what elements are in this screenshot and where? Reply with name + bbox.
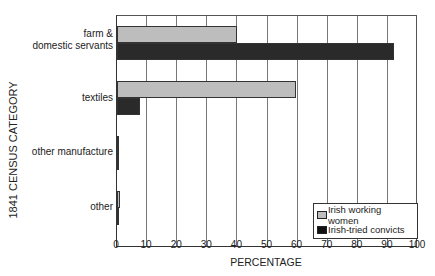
x-tick-label: 10 <box>141 239 152 250</box>
bar-convicts <box>117 43 394 60</box>
legend-label: Irish working women <box>328 204 414 226</box>
x-tick-label: 50 <box>261 239 272 250</box>
x-axis-label: PERCENTAGE <box>230 256 302 268</box>
x-tick-label: 0 <box>113 239 119 250</box>
bar-working-women <box>117 81 296 98</box>
x-tick-label: 20 <box>171 239 182 250</box>
x-tick-label: 60 <box>291 239 302 250</box>
category-label-other: other <box>90 201 113 213</box>
x-tick-label: 100 <box>409 239 426 250</box>
x-tick-label: 90 <box>381 239 392 250</box>
legend: Irish working women Irish-tried convicts <box>313 203 418 239</box>
category-label-line: domestic servants <box>32 40 113 52</box>
bar-convicts <box>117 153 119 170</box>
legend-swatch-light <box>317 211 327 219</box>
legend-item-convicts: Irish-tried convicts <box>317 222 414 237</box>
legend-label: Irish-tried convicts <box>328 224 405 235</box>
bar-working-women <box>117 26 237 43</box>
legend-swatch-dark <box>317 226 327 234</box>
category-label-line: farm & <box>32 28 113 40</box>
x-tick-label: 70 <box>321 239 332 250</box>
legend-item-working-women: Irish working women <box>317 207 414 222</box>
category-label-other-manufacture: other manufacture <box>32 146 113 158</box>
x-tick-label: 30 <box>201 239 212 250</box>
x-tick-label: 80 <box>351 239 362 250</box>
category-label-textiles: textiles <box>82 92 113 104</box>
bar-working-women <box>117 136 119 153</box>
x-tick-label: 40 <box>231 239 242 250</box>
y-axis-label-text: 1841 CENSUS CATEGORY <box>7 81 19 218</box>
category-label-farm: farm & domestic servants <box>32 28 113 52</box>
bar-working-women <box>117 191 120 208</box>
bar-convicts <box>117 208 119 225</box>
bar-convicts <box>117 98 140 115</box>
